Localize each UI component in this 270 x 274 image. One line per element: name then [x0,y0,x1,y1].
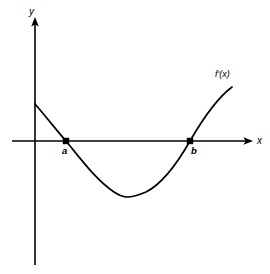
curve-label-fprime: f'(x) [215,70,230,79]
point-label-b: b [191,146,197,156]
point-label-a: a [62,146,67,156]
plot-canvas [0,0,270,274]
point-marker-a [63,138,69,144]
x-axis-label: x [257,136,262,146]
graph-figure: y x a b f'(x) [0,0,270,274]
y-axis-label: y [29,7,34,17]
point-marker-b [187,138,193,144]
